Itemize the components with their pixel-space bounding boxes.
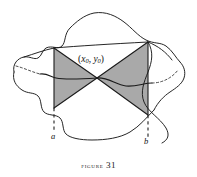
center-ridge-line: [54, 42, 148, 48]
left-ridge-line: [24, 48, 54, 57]
figure-caption: Figure 31: [0, 154, 197, 172]
axis-label-b: b: [144, 136, 148, 146]
right-side-outline: [154, 62, 185, 110]
hidden-right-contour: [152, 70, 178, 83]
axis-label-a: a: [51, 131, 55, 141]
drop-lines: [54, 108, 148, 137]
figure-31-container: (x0, y0) a b Figure 31: [0, 0, 197, 177]
hidden-left-contour: [16, 66, 40, 74]
point-label-close-paren: ): [101, 54, 104, 64]
point-label-x0y0: (x0, y0): [78, 54, 104, 64]
figure-31-drawing: [0, 0, 197, 177]
figure-caption-number: 31: [106, 160, 116, 170]
figure-caption-word: Figure: [81, 161, 103, 170]
figure-caption-text: Figure 31: [81, 160, 116, 170]
